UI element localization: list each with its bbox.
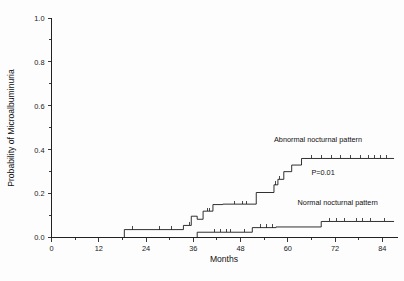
x-tick-label: 0 [49,244,53,253]
x-axis-title: Months [210,254,238,264]
y-axis-ticks [48,18,52,238]
y-axis-tick-labels: 0.00.20.40.60.81.0 [34,14,44,243]
x-tick-label: 48 [236,244,244,253]
y-tick-label: 0.6 [34,102,44,111]
chart-annotations: P=0.01 [311,168,334,177]
x-tick-label: 36 [189,244,197,253]
y-tick-label: 1.0 [34,14,44,23]
x-tick-label: 12 [95,244,103,253]
censor-marks [132,155,386,232]
annotation-p-value: P=0.01 [311,168,334,177]
x-tick-label: 60 [284,244,292,253]
y-tick-label: 0.4 [34,146,44,155]
x-tick-label: 84 [378,244,386,253]
chart-figure: 012243648607284 0.00.20.40.60.81.0 Abnor… [0,0,404,281]
series-label-0: Abnormal nocturnal pattern [274,135,362,144]
x-axis-ticks [52,238,383,242]
kaplan-meier-plot: 012243648607284 0.00.20.40.60.81.0 Abnor… [0,0,404,281]
y-tick-label: 0.8 [34,58,44,67]
x-tick-label: 24 [142,244,150,253]
y-axis-title: Probability of Microalbuminuria [6,69,16,187]
series-label-1: Normal nocturnal pattern [298,198,378,207]
x-tick-label: 72 [331,244,339,253]
y-tick-label: 0.0 [34,233,44,242]
x-axis-tick-labels: 012243648607284 [49,244,386,253]
y-tick-label: 0.2 [34,189,44,198]
